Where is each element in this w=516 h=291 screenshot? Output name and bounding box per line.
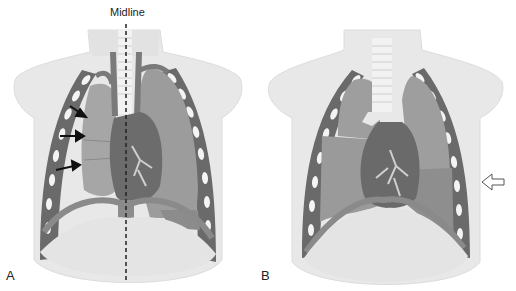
hollow-arrow-icon: [482, 174, 504, 190]
midline-label: Midline: [110, 6, 145, 18]
chest-illustration-b: [258, 0, 516, 291]
panel-label-a: A: [6, 268, 15, 283]
chest-illustration-a: [0, 0, 258, 291]
panel-b: B: [258, 0, 516, 291]
panel-label-b: B: [261, 268, 270, 283]
panel-a: Midline A: [0, 0, 258, 291]
